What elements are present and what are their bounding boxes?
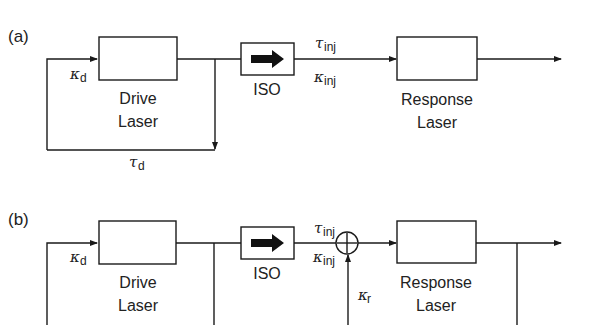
drive-laser-box	[99, 221, 176, 264]
response-laser-label-2: Laser	[417, 114, 458, 131]
panel-a: (a) κ d Drive Laser τ d ISO τ inj κ inj …	[8, 27, 561, 173]
tau-inj-subscript: inj	[324, 40, 336, 54]
drive-laser-box	[99, 37, 177, 80]
drive-laser-label-2: Laser	[118, 297, 159, 314]
summing-junction-icon	[336, 232, 358, 254]
tau-d-symbol: τ	[129, 153, 138, 171]
laser-coupling-diagram: (a) κ d Drive Laser τ d ISO τ inj κ inj …	[0, 0, 590, 325]
kappa-d-symbol: κ	[69, 248, 80, 266]
response-laser-label-1: Response	[400, 274, 472, 291]
tau-inj-symbol: τ	[315, 34, 324, 52]
isolator-label: ISO	[253, 265, 281, 282]
drive-laser-label-1: Drive	[119, 274, 156, 291]
response-laser-box	[397, 37, 477, 80]
response-laser-label-1: Response	[401, 91, 473, 108]
kappa-inj-subscript: inj	[324, 74, 336, 88]
tau-inj-symbol: τ	[314, 219, 323, 237]
drive-laser-label-1: Drive	[119, 90, 156, 107]
panel-b-label: (b)	[8, 210, 29, 229]
tau-inj-subscript: inj	[323, 225, 335, 239]
kappa-d-subscript: d	[80, 254, 87, 268]
kappa-d-subscript: d	[80, 71, 87, 85]
response-laser-label-2: Laser	[416, 297, 457, 314]
kappa-r-subscript: r	[367, 292, 371, 306]
kappa-inj-symbol: κ	[312, 248, 323, 266]
kappa-inj-symbol: κ	[313, 68, 324, 86]
response-laser-box	[397, 221, 476, 263]
drive-laser-label-2: Laser	[118, 113, 159, 130]
kappa-inj-subscript: inj	[323, 254, 335, 268]
kappa-d-symbol: κ	[69, 65, 80, 83]
tau-d-subscript: d	[138, 159, 145, 173]
isolator-label: ISO	[253, 81, 281, 98]
panel-b: (b) κ d Drive Laser ISO τ inj κ inj κ r …	[8, 210, 561, 325]
panel-a-label: (a)	[8, 27, 29, 46]
